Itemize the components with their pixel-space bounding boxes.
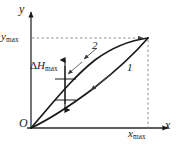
x-max-subscript: max (133, 133, 146, 141)
y-max-label: ymax (1, 31, 19, 42)
origin-label: O (19, 117, 28, 129)
delta-h-base: H (37, 59, 45, 71)
curve-1-label: 1 (127, 62, 133, 73)
curve-2-label: 2 (92, 40, 98, 51)
delta-h-max-label: ΔHmax (30, 60, 58, 71)
y-axis-label: y (19, 3, 24, 15)
x-max-label: xmax (128, 128, 146, 139)
curve-2 (31, 38, 148, 128)
x-axis-label: x (165, 119, 170, 131)
hysteresis-loop-figure: y x O ymax xmax 1 2 ΔHmax (0, 0, 178, 153)
figure-canvas (0, 0, 178, 153)
curve-1-direction-arrow (91, 73, 113, 90)
curve-1 (31, 38, 148, 128)
y-max-subscript: max (6, 36, 19, 44)
delta-h-subscript: max (45, 65, 58, 73)
